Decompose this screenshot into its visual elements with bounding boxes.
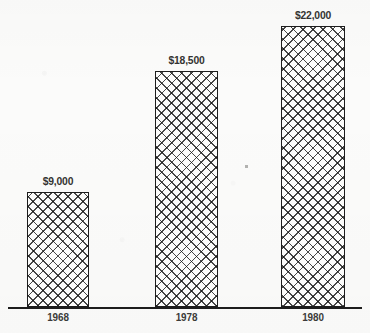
bar-1980 [281,26,345,307]
bar-value-label-1980: $22,000 [259,9,366,21]
bar-1978 [155,71,218,307]
x-axis-label-1980: 1980 [259,311,366,323]
x-axis-baseline [8,307,362,309]
bar-chart: $9,000 1968 $18,500 1978 $22,000 1980 [0,0,370,333]
x-axis-label-1968: 1968 [5,311,110,323]
bar-1968 [27,192,89,307]
bar-value-label-1978: $18,500 [133,54,239,66]
bar-value-label-1968: $9,000 [5,175,110,187]
plot-area: $9,000 1968 $18,500 1978 $22,000 1980 [0,0,370,333]
x-axis-label-1978: 1978 [133,311,239,323]
